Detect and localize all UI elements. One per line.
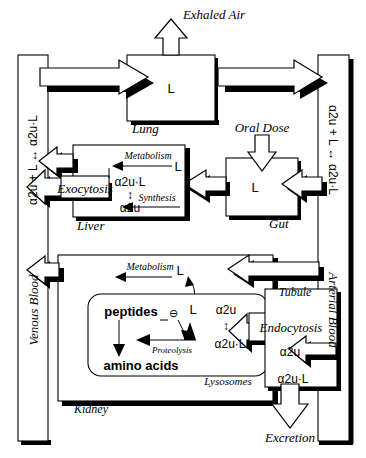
- tubule-protein-label: α2u: [280, 346, 300, 358]
- inhibition-symbol: ⊖: [169, 308, 178, 319]
- gut-to-liver-arrow: [184, 170, 230, 203]
- oral-dose-label: Oral Dose: [235, 121, 290, 134]
- lysosome-complex-label: α2u·L: [215, 338, 246, 350]
- kidney-metabolism-label: Metabolism: [126, 262, 173, 272]
- venous-equilibrium-label: α2u + L ↔ α2u·L: [27, 115, 39, 205]
- peptides-label: peptides: [104, 305, 157, 318]
- venous-blood-vessel: [18, 55, 51, 445]
- proteolysis-label: Proteolysis: [152, 346, 192, 355]
- liver-complex-label: α2u·L: [115, 176, 146, 188]
- liver-label: Liver: [77, 219, 104, 232]
- kidney-ligand-label: L: [176, 264, 183, 277]
- exhaled-air-arrow: [155, 19, 187, 55]
- lysosome-ligand-label: L: [189, 303, 196, 316]
- arterial-blood-label: Arterial Blood: [327, 272, 340, 347]
- endocytosis-label: Endocytosis: [260, 321, 323, 334]
- pbpk-diagram-canvas: .bx{fill:#fff;stroke:#000;stroke-width:1…: [0, 0, 366, 458]
- lysosome-equilibrium-arrow: ↕: [223, 320, 229, 332]
- diagram-vector-layer: .bx{fill:#fff;stroke:#000;stroke-width:1…: [0, 0, 366, 458]
- tubule-complex-label: α2u·L: [278, 373, 309, 385]
- liver-ligand-label: L: [174, 160, 181, 173]
- lung-ligand-label: L: [167, 82, 174, 95]
- exocytosis-label: Exocytosis: [57, 182, 113, 195]
- lysosomes-label: Lysosomes: [204, 376, 251, 387]
- liver-protein-label: α2u: [120, 202, 140, 214]
- gut-label: Gut: [269, 217, 289, 230]
- gut-ligand-label: L: [251, 181, 258, 194]
- liver-metabolism-label: Metabolism: [124, 151, 171, 161]
- excretion-label: Excretion: [265, 431, 315, 444]
- kidney-label: Kidney: [74, 403, 108, 415]
- lung-label: Lung: [132, 122, 159, 135]
- arterial-equilibrium-label: α2u + L ↔ α2u·L: [327, 105, 339, 195]
- exhaled-air-label: Exhaled Air: [183, 8, 245, 21]
- tubule-label: Tubule: [279, 286, 312, 298]
- liver-equilibrium-arrow: ↕: [127, 189, 133, 201]
- liver-synthesis-label: Synthesis: [138, 193, 175, 203]
- lysosome-protein-label: α2u: [216, 304, 236, 316]
- venous-blood-label: Venous Blood: [27, 274, 40, 345]
- amino-acids-label: amino acids: [103, 359, 178, 372]
- lung-to-arterial-arrow: [218, 60, 328, 99]
